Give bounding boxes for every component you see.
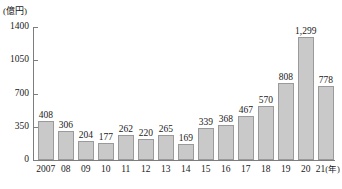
bar-value-label: 778: [319, 75, 333, 85]
bar-value-label: 177: [99, 132, 113, 142]
bar-value-label: 1,299: [295, 26, 316, 36]
bar-group: 204: [78, 27, 95, 160]
x-axis-line: [33, 160, 335, 161]
bar-group: 1,299: [298, 27, 315, 160]
bar-group: 408: [38, 27, 55, 160]
y-axis-tick-label: 1400: [0, 22, 29, 32]
bar-group: 306: [58, 27, 75, 160]
bar-value-label: 467: [239, 105, 253, 115]
bar-value-label: 169: [179, 133, 193, 143]
bar-group: 265: [158, 27, 175, 160]
bar: [178, 144, 195, 160]
y-axis-tick-label: 0: [0, 155, 29, 165]
y-axis-tick-label: 350: [0, 122, 29, 132]
bar-group: 169: [178, 27, 195, 160]
bar-group: 177: [98, 27, 115, 160]
bar-group: 220: [138, 27, 155, 160]
bar-value-label: 408: [39, 110, 53, 120]
bar: [118, 135, 135, 160]
bar-value-label: 368: [219, 114, 233, 124]
bar-value-label: 808: [279, 72, 293, 82]
bar: [258, 106, 275, 160]
x-axis-labels: 20070809101112131415161718192021(年): [34, 164, 342, 178]
bar-group: 368: [218, 27, 235, 160]
bar-value-label: 204: [79, 130, 93, 140]
x-axis-tick-label: 21(年): [308, 164, 342, 175]
bar-group: 570: [258, 27, 275, 160]
bar-value-label: 265: [159, 124, 173, 134]
y-axis-tick: [33, 160, 38, 161]
bar: [78, 141, 95, 160]
bar: [218, 125, 235, 160]
bar-value-label: 220: [139, 128, 153, 138]
bar: [98, 143, 115, 160]
bar-value-label: 339: [199, 117, 213, 127]
bar: [58, 131, 75, 160]
bar-group: 808: [278, 27, 295, 160]
bar: [138, 139, 155, 160]
bar-group: 778: [318, 27, 335, 160]
bar-value-label: 306: [59, 120, 73, 130]
bar: [198, 128, 215, 160]
bar: [38, 121, 55, 160]
bar-value-label: 262: [119, 124, 133, 134]
y-axis-unit-label: (億円): [3, 6, 27, 17]
bar-chart: (億円) 035070010501400 4083062041772622202…: [0, 0, 342, 189]
bar-value-label: 570: [259, 95, 273, 105]
bar: [238, 116, 255, 160]
bar: [278, 83, 295, 160]
bar-group: 467: [238, 27, 255, 160]
bar-group: 262: [118, 27, 135, 160]
y-axis-tick-label: 1050: [0, 55, 29, 65]
bar: [298, 37, 315, 160]
y-axis-tick-label: 700: [0, 89, 29, 99]
bar-group: 339: [198, 27, 215, 160]
plot-area: 4083062041772622202651693393684675708081…: [34, 27, 335, 160]
bar: [158, 135, 175, 160]
bar: [318, 86, 335, 160]
x-axis-unit-label: (年): [325, 164, 340, 174]
